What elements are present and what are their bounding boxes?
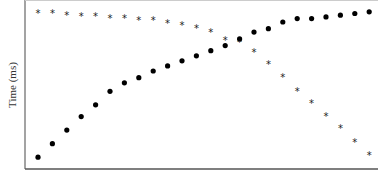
star-point: * [324, 111, 329, 122]
star-point: * [352, 137, 357, 148]
star-point: * [64, 10, 69, 21]
data-marks: ************************ [35, 8, 371, 161]
star-point: * [266, 59, 271, 70]
star-point: * [295, 86, 300, 97]
circle-point [35, 155, 40, 160]
circle-point [295, 16, 300, 21]
star-point: * [108, 13, 113, 24]
circle-point [50, 141, 55, 146]
star-point: * [93, 11, 98, 22]
circle-point [208, 48, 213, 53]
star-point: * [338, 123, 343, 134]
circle-point [251, 29, 256, 34]
star-point: * [165, 18, 170, 29]
circle-point [136, 75, 141, 80]
circle-point [338, 13, 343, 18]
star-point: * [50, 8, 55, 19]
circle-point [223, 43, 228, 48]
star-point: * [122, 13, 127, 24]
circle-point [165, 63, 170, 68]
circle-point [367, 9, 372, 14]
star-point: * [309, 98, 314, 109]
star-point: * [151, 15, 156, 26]
circle-point [151, 68, 156, 73]
star-point: * [194, 23, 199, 34]
star-point: * [208, 27, 213, 38]
circle-point [194, 53, 199, 58]
circle-point [266, 26, 271, 31]
circle-point [122, 80, 127, 85]
circle-point [237, 36, 242, 41]
scatter-chart: Time (ms) ************************ [0, 0, 378, 177]
circle-point [79, 114, 84, 119]
circle-point [280, 19, 285, 24]
star-point: * [136, 15, 141, 26]
circle-point [93, 102, 98, 107]
axes [25, 0, 378, 169]
circle-point [107, 89, 112, 94]
star-point: * [367, 150, 372, 161]
star-point: * [252, 47, 257, 58]
circle-point [323, 14, 328, 19]
circle-point [64, 128, 69, 133]
circle-point [309, 16, 314, 21]
star-point: * [79, 11, 84, 22]
circle-point [352, 11, 357, 16]
star-point: * [36, 8, 41, 19]
star-point: * [280, 72, 285, 83]
star-point: * [180, 20, 185, 31]
y-axis-label: Time (ms) [6, 62, 19, 108]
circle-point [179, 58, 184, 63]
